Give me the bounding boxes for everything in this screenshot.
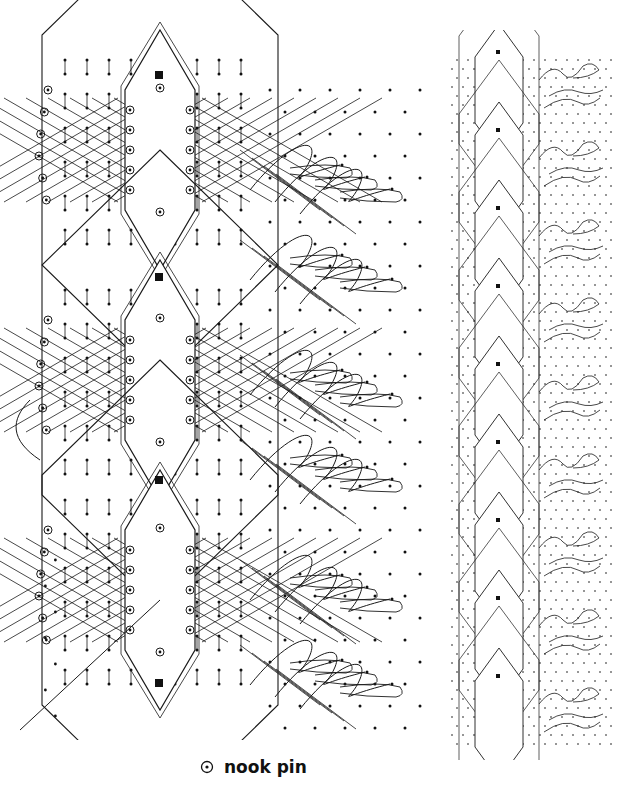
pricking-repeat-strip xyxy=(444,30,620,760)
fan-6 xyxy=(240,640,402,729)
legend-label: nook pin xyxy=(224,757,307,777)
nook-pin-icon xyxy=(200,760,214,774)
legend: nook pin xyxy=(200,757,307,777)
square-pin-marker xyxy=(155,273,163,281)
fan-1 xyxy=(240,145,402,234)
fan-2 xyxy=(240,235,402,324)
square-pin-marker xyxy=(155,476,163,484)
square-pin-marker xyxy=(155,71,163,79)
fan-4 xyxy=(240,435,402,524)
square-pin-marker xyxy=(155,679,163,687)
pricking-detail-diagram xyxy=(0,0,430,740)
